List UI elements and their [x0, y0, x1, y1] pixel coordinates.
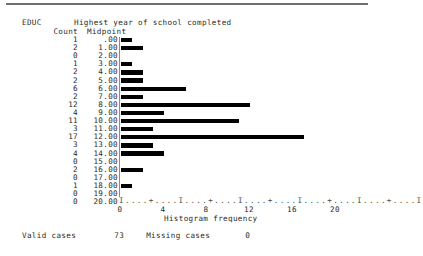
histogram-bar: [121, 127, 153, 131]
x-tick-label: 12: [244, 205, 254, 214]
top-divider-rule: [6, 3, 368, 5]
x-tick-label: 0: [118, 205, 123, 214]
missing-cases-value: 0: [210, 231, 250, 240]
row-count: 1: [22, 36, 78, 44]
histogram-bar: [121, 184, 132, 188]
histogram-bar: [121, 151, 164, 155]
footer-summary: Valid cases73Missing cases0: [22, 231, 250, 240]
histogram-rows: 1.0021.0002.0013.0024.0025.0066.0027.001…: [22, 36, 362, 206]
histogram-bar: [121, 111, 164, 115]
row-count: 17: [22, 133, 78, 141]
row-count: 3: [22, 141, 78, 149]
histogram-bar: [121, 62, 132, 66]
histogram-bar: [121, 70, 143, 74]
histogram-bar: [121, 78, 143, 82]
histogram-bar: [121, 135, 304, 139]
row-count: 12: [22, 101, 78, 109]
x-tick-label: 16: [287, 205, 297, 214]
valid-cases-value: 73: [76, 231, 124, 240]
x-tick-label: 20: [330, 205, 340, 214]
row-count: 2: [22, 68, 78, 76]
row-count: 0: [22, 190, 78, 198]
row-count: 2: [22, 77, 78, 85]
row-count: 4: [22, 150, 78, 158]
row-count: 2: [22, 166, 78, 174]
variable-name: EDUC: [22, 18, 74, 27]
variable-label: Highest year of school completed: [74, 18, 232, 27]
row-midpoint: 20.00: [84, 198, 118, 206]
histogram-bar: [121, 143, 153, 147]
histogram-bar: [121, 95, 143, 99]
row-count: 6: [22, 85, 78, 93]
histogram-bar: [121, 38, 132, 42]
histogram-bar: [121, 119, 239, 123]
valid-cases-label: Valid cases: [22, 231, 76, 240]
row-count: 11: [22, 117, 78, 125]
missing-cases-label: Missing cases: [124, 231, 210, 240]
report-header: EDUCHighest year of school completed: [22, 18, 232, 27]
row-count: 1: [22, 60, 78, 68]
count-column-header: Count: [22, 27, 78, 36]
histogram-bar: [121, 168, 143, 172]
row-count: 1: [22, 182, 78, 190]
histogram-bar: [121, 103, 250, 107]
histogram-bar: [121, 87, 186, 91]
row-count: 0: [22, 174, 78, 182]
row-count: 0: [22, 198, 78, 206]
row-count: 0: [22, 158, 78, 166]
x-tick-label: 8: [204, 205, 209, 214]
x-axis-ruler: I....+....I....+....I....+....I....+....…: [119, 196, 423, 205]
row-count: 2: [22, 44, 78, 52]
x-tick-label: 4: [161, 205, 166, 214]
midpoint-column-header: Midpoint: [78, 27, 126, 36]
row-count: 0: [22, 52, 78, 60]
x-axis-title: Histogram frequency: [164, 214, 258, 223]
histogram-bar: [121, 46, 143, 50]
